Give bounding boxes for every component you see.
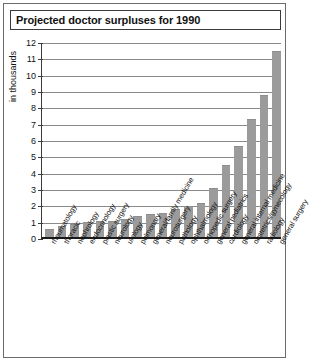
y-axis-tick-label: 4 <box>31 170 36 179</box>
y-axis-tick-label: 8 <box>31 104 36 113</box>
y-axis-tick <box>38 239 43 240</box>
chart-figure: Projected doctor surpluses for 1990 in t… <box>3 3 286 358</box>
y-axis-tick-label: 7 <box>31 121 36 130</box>
y-axis-tick-label: 2 <box>31 202 36 211</box>
y-axis-title: in thousands <box>8 51 18 102</box>
chart-title-box: Projected doctor surpluses for 1990 <box>10 10 281 30</box>
y-axis-tick-label: 12 <box>26 39 36 48</box>
bar-series <box>43 43 281 237</box>
y-axis-tick-label: 0 <box>31 235 36 244</box>
y-axis-tick-label: 3 <box>31 186 36 195</box>
y-axis-tick-label: 6 <box>31 137 36 146</box>
chart-inner: Projected doctor surpluses for 1990 in t… <box>10 10 279 351</box>
y-axis-tick-label: 10 <box>26 72 36 81</box>
y-axis-tick-label: 11 <box>27 55 36 64</box>
y-axis-tick-label: 1 <box>31 219 36 228</box>
x-axis-labels: rheumatologythoracicnephrologyendocrinol… <box>41 241 281 351</box>
y-axis-tick-label: 5 <box>31 153 36 162</box>
page-title: Projected doctor surpluses for 1990 <box>16 14 200 26</box>
y-axis-tick-label: 9 <box>31 88 36 97</box>
